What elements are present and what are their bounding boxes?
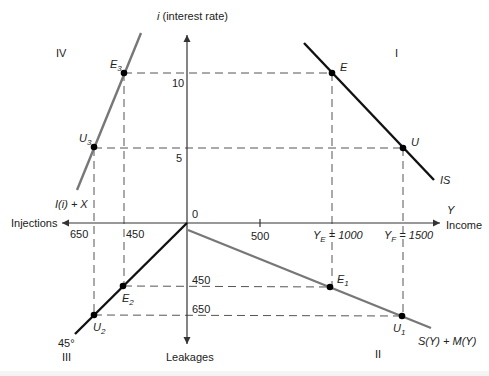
tick-label-injections-450: 450 xyxy=(126,228,144,240)
tick-label-leakages-450: 450 xyxy=(192,274,210,286)
bottom-strip xyxy=(0,371,489,376)
point-U2 xyxy=(91,312,98,319)
point-E2 xyxy=(120,283,127,290)
label-U1: U1 xyxy=(393,322,405,337)
is-curve-label: IS xyxy=(440,174,451,186)
label-E3: E3 xyxy=(110,58,122,73)
points xyxy=(91,70,407,320)
tick-label-i-10: 10 xyxy=(172,77,184,89)
dashed-guides xyxy=(94,73,403,316)
quadrant-IV-label: IV xyxy=(56,47,67,59)
forty-five-degree-label: 45° xyxy=(58,337,75,349)
investment-exports-label: I(i) + X xyxy=(55,198,88,210)
quadrant-III-label: III xyxy=(62,351,71,363)
tick-label-i-5: 5 xyxy=(176,152,182,164)
quadrant-II-label: II xyxy=(375,348,381,360)
savings-imports-curve xyxy=(188,230,431,328)
point-E1 xyxy=(327,284,334,291)
horizontal-axis-left-label: Injections xyxy=(11,217,58,229)
investment-exports-curve xyxy=(77,33,141,190)
horizontal-axis-right-label: Income xyxy=(446,219,482,231)
savings-imports-label: S(Y) + M(Y) xyxy=(418,335,477,347)
is-curve xyxy=(304,43,434,180)
four-quadrant-is-diagram: i (interest rate) Leakages Y Income Inje… xyxy=(0,0,489,376)
label-U3: U3 xyxy=(79,132,92,147)
label-U2: U2 xyxy=(93,321,106,336)
point-U3 xyxy=(91,144,98,151)
tick-label-income-500: 500 xyxy=(251,230,269,242)
vertical-axis-bottom-label: Leakages xyxy=(166,351,214,363)
label-E1: E1 xyxy=(337,273,349,288)
tick-label-income-YE: YE = 1000 xyxy=(313,229,364,244)
point-U xyxy=(400,145,407,152)
origin-label: 0 xyxy=(192,208,198,220)
point-U1 xyxy=(399,313,406,320)
tick-label-income-YF: YF = 1500 xyxy=(384,229,434,244)
vertical-axis-top-label: i (interest rate) xyxy=(157,10,228,22)
label-E: E xyxy=(340,61,348,73)
label-U: U xyxy=(411,136,419,148)
quadrant-I-label: I xyxy=(395,47,398,59)
tick-label-injections-650: 650 xyxy=(70,228,88,240)
tick-label-leakages-650: 650 xyxy=(192,303,210,315)
label-E2: E2 xyxy=(122,292,134,307)
horizontal-axis-right-y-label: Y xyxy=(447,204,455,216)
point-E xyxy=(329,70,336,77)
axes xyxy=(62,35,440,344)
